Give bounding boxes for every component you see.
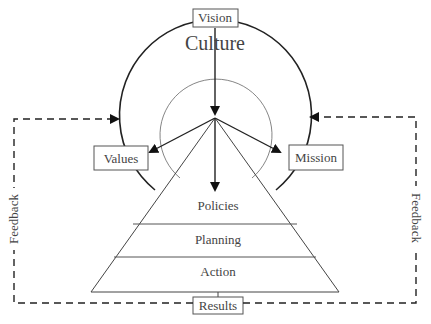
pyramid-level-planning: Planning [195,232,242,247]
values-box: Values [94,146,148,170]
results-label: Results [199,298,237,313]
mission-label: Mission [295,150,337,165]
culture-strategy-diagram: Culture Vision Values Mission Policies P… [0,0,431,324]
results-box: Results [193,297,243,314]
arrow-to-mission [215,118,280,152]
pyramid-level-action: Action [200,264,236,279]
culture-label: Culture [185,32,245,54]
pyramid-level-policies: Policies [197,198,238,213]
vision-box: Vision [193,9,238,27]
feedback-label-right: Feedback [409,193,424,243]
vision-label: Vision [198,10,232,25]
feedback-label-left: Feedback [6,194,21,244]
mission-box: Mission [289,145,343,170]
values-label: Values [104,151,139,166]
culture-inner-arc [160,79,272,178]
